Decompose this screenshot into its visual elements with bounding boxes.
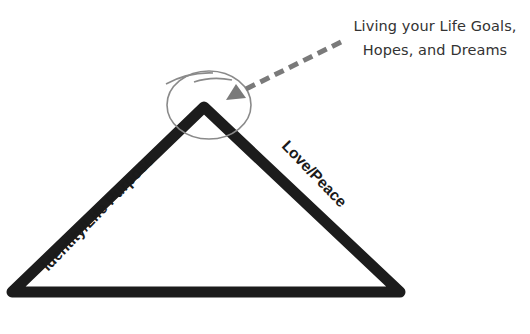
- callout-line-1: Living your Life Goals,: [340, 14, 530, 38]
- callout-line-2: Hopes, and Dreams: [340, 38, 530, 62]
- dashed-arrow-line: [240, 42, 341, 92]
- callout-text: Living your Life Goals, Hopes, and Dream…: [340, 14, 530, 62]
- apex-highlight-swoosh-inner: [194, 78, 232, 82]
- diagram-canvas: Living your Life Goals, Hopes, and Dream…: [0, 0, 530, 334]
- arrow-head-icon: [226, 84, 246, 100]
